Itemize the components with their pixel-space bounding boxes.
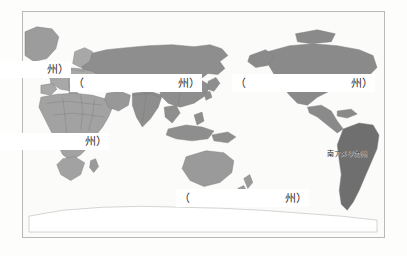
- blank-africa-suffix: 州）: [85, 136, 109, 147]
- blank-europe[interactable]: 州）: [0, 61, 71, 78]
- blank-north-america-suffix: 州）: [351, 78, 375, 89]
- blank-north-america-paren-open: （: [232, 78, 246, 89]
- blank-africa[interactable]: 州）: [0, 133, 109, 150]
- blank-oceania-suffix: 州）: [285, 193, 309, 204]
- blank-asia[interactable]: （ 州）: [70, 74, 202, 92]
- blank-oceania-paren-open: （: [176, 193, 190, 204]
- blank-europe-suffix: 州）: [47, 64, 71, 75]
- blank-asia-suffix: 州）: [178, 78, 202, 89]
- blank-asia-paren-open: （: [70, 78, 84, 89]
- blank-north-america[interactable]: （ 州）: [232, 74, 375, 92]
- label-south-america: 南アメリカ州: [327, 151, 367, 158]
- worksheet-page: 州） （ 州） （ 州） 州） （ 州） 南アメリカ州: [0, 0, 407, 256]
- blank-oceania[interactable]: （ 州）: [176, 189, 309, 207]
